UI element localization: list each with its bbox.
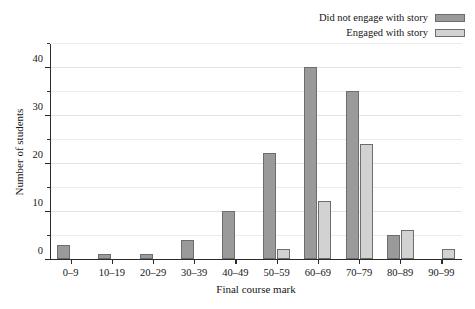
legend-swatch-icon bbox=[435, 29, 465, 37]
bar bbox=[387, 235, 400, 259]
legend-item-label: Engaged with story bbox=[346, 27, 428, 39]
legend-swatch-icon bbox=[435, 14, 465, 22]
bar bbox=[57, 245, 70, 259]
x-tick-mark bbox=[441, 260, 442, 264]
y-tick-label: 0 bbox=[38, 244, 43, 255]
bar bbox=[360, 144, 373, 259]
x-tick-label: 40–49 bbox=[222, 267, 248, 278]
bar bbox=[181, 240, 194, 259]
y-axis-spine bbox=[50, 44, 51, 260]
legend-item-label: Did not engage with story bbox=[319, 12, 428, 24]
y-tick-minor bbox=[47, 91, 50, 92]
bar bbox=[346, 91, 359, 259]
bar bbox=[318, 201, 331, 259]
gridline-minor bbox=[51, 43, 462, 44]
x-tick-mark bbox=[359, 260, 360, 264]
x-axis-title-label: Final course mark bbox=[216, 283, 295, 295]
y-tick-label: 20 bbox=[33, 148, 44, 159]
bar bbox=[442, 249, 455, 259]
y-tick-major bbox=[45, 163, 50, 164]
bar bbox=[263, 153, 276, 259]
x-tick-label: 50–59 bbox=[263, 267, 289, 278]
y-tick-major bbox=[45, 67, 50, 68]
x-tick-mark bbox=[194, 260, 195, 264]
x-tick-label: 10–19 bbox=[99, 267, 125, 278]
bar bbox=[304, 67, 317, 259]
x-tick-label: 60–69 bbox=[305, 267, 331, 278]
x-tick-label: 70–79 bbox=[346, 267, 372, 278]
legend-item-2[interactable]: Engaged with story bbox=[346, 27, 465, 39]
y-tick-major bbox=[45, 211, 50, 212]
x-tick-mark bbox=[235, 260, 236, 264]
x-tick-mark bbox=[318, 260, 319, 264]
y-axis-title-label: Number of students bbox=[13, 109, 25, 196]
gridline-major bbox=[51, 115, 462, 116]
bar bbox=[140, 254, 153, 259]
bar-chart-figure: Did not engage with storyEngaged with st… bbox=[0, 0, 475, 309]
x-tick-label: 0–9 bbox=[63, 267, 79, 278]
x-tick-mark bbox=[277, 260, 278, 264]
y-tick-label: 40 bbox=[33, 52, 44, 63]
y-tick-minor bbox=[47, 187, 50, 188]
bar bbox=[401, 230, 414, 259]
y-tick-label: 30 bbox=[33, 100, 44, 111]
gridline-minor bbox=[51, 187, 462, 188]
gridline-major bbox=[51, 211, 462, 212]
chart-legend: Did not engage with storyEngaged with st… bbox=[319, 12, 465, 39]
gridline-minor bbox=[51, 91, 462, 92]
gridline-major bbox=[51, 67, 462, 68]
y-tick-minor bbox=[47, 43, 50, 44]
y-tick-major bbox=[45, 115, 50, 116]
x-axis-title: Final course mark bbox=[50, 283, 462, 295]
legend-item-1[interactable]: Did not engage with story bbox=[319, 12, 465, 24]
x-tick-mark bbox=[153, 260, 154, 264]
bar bbox=[277, 249, 290, 259]
x-tick-label: 90–99 bbox=[428, 267, 454, 278]
y-tick-minor bbox=[47, 235, 50, 236]
bar bbox=[98, 254, 111, 259]
gridline-minor bbox=[51, 139, 462, 140]
y-tick-major bbox=[45, 259, 50, 260]
bar bbox=[222, 211, 235, 259]
x-tick-label: 80–89 bbox=[387, 267, 413, 278]
y-tick-label: 10 bbox=[33, 196, 44, 207]
x-tick-label: 30–39 bbox=[181, 267, 207, 278]
y-axis-title: Number of students bbox=[12, 44, 26, 260]
y-tick-minor bbox=[47, 139, 50, 140]
x-tick-label: 20–29 bbox=[140, 267, 166, 278]
x-tick-mark bbox=[400, 260, 401, 264]
x-tick-mark bbox=[71, 260, 72, 264]
gridline-major bbox=[51, 163, 462, 164]
plot-area: 0102030400–910–1920–2930–3940–4950–5960–… bbox=[50, 44, 462, 260]
x-tick-mark bbox=[112, 260, 113, 264]
